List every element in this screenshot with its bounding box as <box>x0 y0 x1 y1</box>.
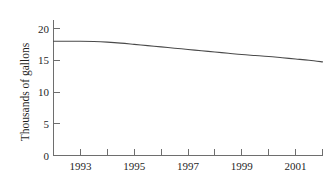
chart-figure: Thousands of gallons 20 15 10 5 0 <box>0 0 335 183</box>
x-axis-tick-labels: 1993 1995 1997 1999 2001 <box>69 160 306 172</box>
y-tick-label-20: 20 <box>38 23 50 35</box>
x-tick-label-1995: 1995 <box>123 160 146 172</box>
x-tick-label-2001: 2001 <box>285 160 307 172</box>
line-chart: Thousands of gallons 20 15 10 5 0 <box>0 0 335 183</box>
y-tick-label-10: 10 <box>38 86 50 98</box>
y-axis-title: Thousands of gallons <box>19 42 32 141</box>
y-tick-label-15: 15 <box>38 54 50 66</box>
x-tick-label-1993: 1993 <box>69 160 92 172</box>
y-tick-label-0: 0 <box>44 150 50 162</box>
y-axis-ticks: 20 15 10 5 0 <box>38 23 60 162</box>
data-series-line <box>54 41 323 62</box>
y-tick-label-5: 5 <box>44 118 50 130</box>
x-axis-ticks <box>54 149 323 156</box>
x-tick-label-1999: 1999 <box>231 160 254 172</box>
x-tick-label-1997: 1997 <box>177 160 200 172</box>
